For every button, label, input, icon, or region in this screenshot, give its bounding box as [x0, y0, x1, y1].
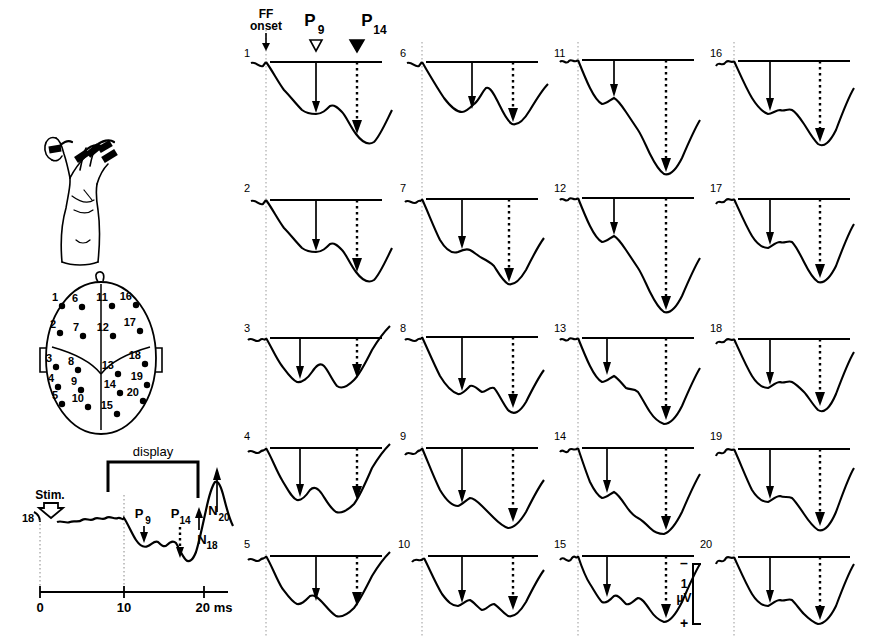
trace-label: 17 — [710, 182, 722, 194]
n18-inset-label: N — [197, 532, 206, 547]
electrode-label: 8 — [68, 355, 74, 367]
figure-root: FF onset P 9 P 14 1 2 — [0, 0, 885, 638]
electrode-dot — [80, 333, 86, 339]
ff-onset-label-line2: onset — [250, 19, 282, 33]
stim-label: Stim. — [35, 488, 64, 502]
electrode-label: 19 — [131, 370, 143, 382]
p14-inset-sub: 14 — [179, 515, 191, 526]
electrode-label: 15 — [101, 399, 113, 411]
electrode-label: 12 — [97, 321, 109, 333]
electrode-dot — [109, 303, 115, 309]
trace-label: 2 — [244, 182, 250, 194]
scale-plus-sign: + — [680, 615, 688, 631]
trace-label: 1 — [244, 47, 250, 59]
trace-label: 9 — [400, 430, 406, 442]
n20-inset-label: N — [208, 503, 217, 518]
electrode-label: 3 — [46, 352, 52, 364]
electrode-dot — [57, 330, 63, 336]
trace-label: 11 — [554, 47, 565, 59]
electrode-label: 4 — [48, 372, 55, 384]
electrode-label: 11 — [96, 291, 108, 303]
trace-label: 14 — [554, 430, 566, 442]
p14-header-label: P — [361, 11, 372, 30]
electrode-label: 5 — [52, 389, 58, 401]
electrode-dot — [59, 401, 65, 407]
trace-label: 13 — [554, 322, 566, 334]
electrode-dot — [85, 404, 91, 410]
trace-label: 4 — [244, 430, 250, 442]
trace-label: 15 — [554, 538, 566, 550]
electrode-label: 16 — [120, 290, 132, 302]
electrode-dot — [59, 303, 65, 309]
electrode-label: 2 — [50, 318, 56, 330]
electrode-label: 18 — [129, 349, 141, 361]
electrode-label: 17 — [124, 316, 136, 328]
n18-inset-sub: 18 — [206, 540, 218, 551]
p9-inset-label: P — [135, 506, 144, 521]
electrode-label: 9 — [71, 375, 77, 387]
electrode-label: 6 — [72, 292, 78, 304]
p14-header-sub: 14 — [373, 23, 387, 37]
trace-label: 8 — [400, 322, 406, 334]
trace-label: 6 — [400, 47, 406, 59]
scale-unit: µV — [677, 591, 692, 605]
trace-label: 18 — [710, 322, 722, 334]
electrode-label: 14 — [104, 378, 117, 390]
electrode-dot — [110, 333, 116, 339]
electrode-label: 7 — [73, 321, 79, 333]
p9-inset-sub: 9 — [145, 515, 151, 526]
electrode-label: 10 — [72, 392, 84, 404]
trace-label: 16 — [710, 47, 722, 59]
n20-inset-sub: 20 — [218, 512, 230, 523]
scale-minus-sign: – — [680, 555, 688, 571]
p9-header-sub: 9 — [318, 23, 325, 37]
p9-header-label: P — [304, 11, 315, 30]
electrode-label: 1 — [52, 291, 58, 303]
electrode-dot — [79, 304, 85, 310]
p14-inset-label: P — [171, 506, 180, 521]
electrode-dot — [133, 302, 139, 308]
electrode-dot — [117, 390, 123, 396]
trace-label: 5 — [244, 538, 250, 550]
trace-label: 7 — [400, 182, 406, 194]
trace-label: 20 — [700, 538, 712, 550]
scale-value: 1 — [681, 577, 688, 591]
electrode-dot — [114, 411, 120, 417]
trace-label: 19 — [710, 430, 722, 442]
electrode-dot — [75, 367, 81, 373]
electrode-dot — [144, 382, 150, 388]
electrode-dot — [53, 364, 59, 370]
axis-tick-10: 10 — [117, 600, 131, 615]
electrode-dot — [137, 328, 143, 334]
inset-trace-label: 18 — [22, 512, 34, 524]
electrode-label: 13 — [102, 359, 114, 371]
trace-label: 3 — [244, 322, 250, 334]
axis-tick-0: 0 — [36, 600, 43, 615]
display-label: display — [133, 444, 174, 459]
figure-svg: FF onset P 9 P 14 1 2 — [0, 0, 885, 638]
axis-tick-20: 20 ms — [196, 600, 233, 615]
trace-label: 10 — [398, 538, 410, 550]
electrode-dot — [142, 361, 148, 367]
trace-label: 12 — [554, 182, 566, 194]
electrode-dot — [115, 371, 121, 377]
electrode-label: 20 — [127, 386, 139, 398]
electrode-dot — [140, 398, 146, 404]
